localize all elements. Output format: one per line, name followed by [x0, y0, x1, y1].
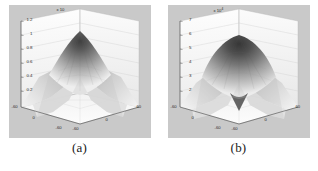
figure-panel-a: x 10 1.2 1 0.8 0.6 0.4 0.2 -60 0 -60 -60… — [0, 0, 159, 156]
x-tick-b-bottom-2: 0 — [265, 117, 267, 122]
y-tick-b-2: 5 — [168, 45, 192, 50]
x-tick-b-bottom-3: 60 — [296, 104, 301, 109]
x-tick-a-bottom-1: -60 — [73, 126, 79, 131]
y-tick-a-1: 1 — [9, 31, 33, 36]
x-tick-b-left-1: 0 — [192, 115, 194, 120]
axes-a: x 10 1.2 1 0.8 0.6 0.4 0.2 -60 0 -60 -60… — [9, 5, 151, 138]
figure-sheet: x 10 1.2 1 0.8 0.6 0.4 0.2 -60 0 -60 -60… — [0, 0, 318, 171]
x-tick-a-left-1: 0 — [33, 115, 35, 120]
x-tick-b-bottom-1: -60 — [232, 126, 238, 131]
y-tick-b-5: 2 — [168, 87, 192, 92]
x-tick-a-bottom-2: 0 — [106, 117, 108, 122]
y-tick-b-1: 6 — [168, 31, 192, 36]
caption-b: (b) — [159, 140, 318, 156]
surface-plot-a — [9, 5, 151, 138]
x-tick-a-bottom-3: 60 — [137, 104, 142, 109]
y-tick-a-5: 0.2 — [9, 87, 33, 92]
surface-plot-b — [168, 5, 310, 138]
caption-a: (a) — [0, 140, 159, 156]
z-exponent-label-a: x 10 — [57, 7, 65, 12]
y-tick-a-0: 1.2 — [9, 17, 33, 22]
z-exponent-label-b: x 104 — [214, 7, 224, 13]
x-tick-b-bottom-0: -60 — [215, 125, 221, 130]
figure-panel-b: x 104 7 6 5 4 3 2 -60 0 -60 -60 0 60 (b) — [159, 0, 318, 156]
x-tick-a-left-0: -60 — [12, 104, 18, 109]
y-tick-b-4: 3 — [168, 73, 192, 78]
x-tick-a-bottom-0: -60 — [56, 125, 62, 130]
y-tick-b-0: 7 — [168, 17, 192, 22]
y-tick-b-3: 4 — [168, 59, 192, 64]
axes-b: x 104 7 6 5 4 3 2 -60 0 -60 -60 0 60 — [168, 5, 310, 138]
z-exponent-power-b: 4 — [221, 7, 223, 11]
y-tick-a-2: 0.8 — [9, 45, 33, 50]
y-tick-a-3: 0.6 — [9, 59, 33, 64]
x-tick-b-left-0: -60 — [171, 104, 177, 109]
y-tick-a-4: 0.4 — [9, 73, 33, 78]
